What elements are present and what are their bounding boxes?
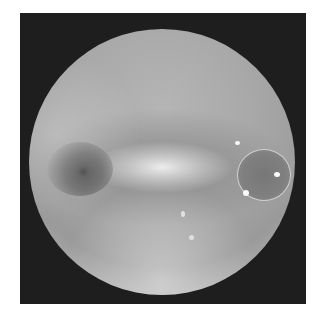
bright-spot: [274, 172, 280, 177]
left-dark-lesion: [47, 142, 113, 196]
bright-spot: [181, 211, 185, 217]
retina-image: [29, 29, 295, 295]
bright-spot: [243, 190, 249, 196]
right-circular-lesion: [237, 149, 291, 201]
bright-spot: [235, 141, 240, 145]
bright-spot: [189, 235, 194, 240]
